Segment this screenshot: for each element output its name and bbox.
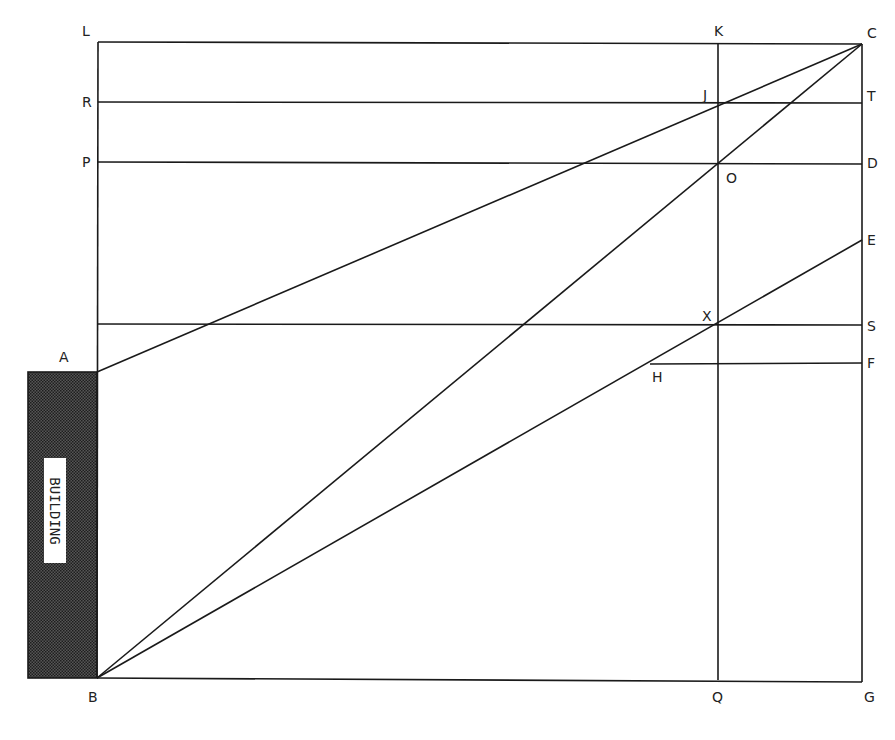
line-XS	[97, 324, 862, 325]
line-PD	[98, 162, 862, 164]
line-BG	[97, 678, 862, 682]
point-label-H: H	[652, 370, 663, 384]
point-label-J: J	[703, 88, 707, 102]
point-label-L: L	[82, 24, 90, 38]
point-label-C: C	[867, 26, 877, 40]
line-LB	[97, 42, 98, 678]
building-label: BUILDING	[47, 477, 63, 544]
point-label-A: A	[59, 350, 69, 364]
point-label-B: B	[88, 690, 98, 704]
line-AC	[97, 44, 862, 372]
line-RT	[98, 102, 862, 103]
line-HF	[650, 363, 862, 364]
line-LC	[98, 42, 862, 44]
point-label-G: G	[864, 690, 875, 704]
line-BC	[97, 44, 862, 678]
point-label-T: T	[867, 89, 876, 103]
point-label-X: X	[702, 309, 712, 323]
point-label-K: K	[714, 24, 723, 38]
geometry-diagram	[0, 0, 895, 740]
building-label-box: BUILDING	[44, 458, 66, 563]
point-label-E: E	[867, 233, 876, 247]
point-label-O: O	[726, 171, 737, 185]
point-label-S: S	[867, 319, 876, 333]
point-label-R: R	[82, 95, 92, 109]
point-label-P: P	[82, 155, 90, 169]
point-label-Q: Q	[712, 690, 723, 704]
line-BE	[97, 240, 862, 678]
point-label-D: D	[867, 156, 878, 170]
point-label-F: F	[867, 356, 875, 370]
